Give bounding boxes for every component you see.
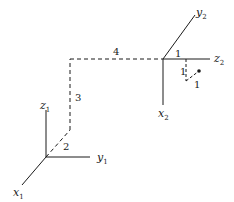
label-x2: x2 xyxy=(158,107,169,122)
label-segment-2: 2 xyxy=(63,141,69,152)
label-y2: y2 xyxy=(195,6,207,21)
label-x1: x1 xyxy=(13,186,24,201)
target-point xyxy=(197,69,201,73)
label-vertical-offset: 1 xyxy=(180,66,186,77)
label-diagonal-offset: 1 xyxy=(194,79,200,90)
coordinate-frames-diagram: z1 y1 x1 y2 z2 x2 2 3 4 1 1 1 xyxy=(0,0,234,202)
frame1-x-axis xyxy=(22,157,46,185)
label-z2-offset: 1 xyxy=(175,48,181,59)
label-y1: y1 xyxy=(96,151,108,166)
point-path xyxy=(186,59,199,81)
label-z1: z1 xyxy=(39,99,50,114)
label-segment-3: 3 xyxy=(75,92,81,103)
label-segment-4: 4 xyxy=(113,46,119,57)
label-z2: z2 xyxy=(213,52,224,67)
